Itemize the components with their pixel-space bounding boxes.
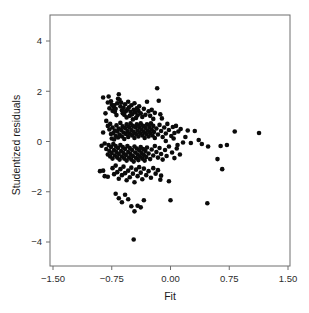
data-point	[156, 132, 161, 137]
data-point	[131, 171, 136, 176]
data-point	[218, 144, 223, 149]
data-point	[160, 116, 165, 121]
data-point	[153, 136, 158, 141]
data-point	[155, 86, 160, 91]
data-point	[113, 163, 118, 168]
data-point	[159, 129, 164, 134]
data-point	[178, 127, 183, 132]
data-point	[142, 166, 147, 171]
data-point	[164, 139, 169, 144]
y-tick-label: 4	[37, 35, 42, 46]
data-point	[137, 104, 142, 109]
data-point	[117, 92, 122, 97]
data-point	[181, 140, 186, 145]
data-point	[113, 107, 118, 112]
data-point	[132, 101, 137, 106]
data-point	[140, 177, 145, 182]
data-point	[129, 165, 134, 170]
data-point	[132, 209, 137, 214]
data-point	[126, 197, 131, 202]
data-point	[163, 148, 168, 153]
data-point	[113, 191, 118, 196]
y-tick-label: 0	[37, 136, 42, 147]
data-point	[151, 117, 156, 122]
data-point	[153, 144, 158, 149]
data-point	[178, 152, 183, 157]
scatter-plot-figure: −1.50−0.750.000.751.50 420−2−4 Fit Stude…	[0, 0, 309, 313]
data-point	[132, 180, 137, 185]
x-tick-label: 0.00	[161, 273, 180, 284]
data-point	[220, 167, 225, 172]
data-point	[160, 157, 165, 162]
data-point	[119, 100, 124, 105]
data-point	[172, 131, 177, 136]
x-tick-label: −0.75	[100, 273, 124, 284]
data-point	[257, 131, 262, 136]
data-point	[175, 143, 180, 148]
data-point	[135, 174, 140, 179]
data-point	[101, 130, 106, 135]
data-point	[157, 146, 162, 151]
data-point	[162, 125, 167, 130]
data-point	[121, 164, 126, 169]
data-point	[145, 145, 150, 150]
data-point	[149, 147, 154, 152]
y-tick-label: −2	[31, 186, 42, 197]
data-point	[131, 237, 136, 242]
data-point	[117, 176, 122, 181]
data-point	[151, 166, 156, 171]
y-tick-label: 2	[37, 86, 42, 97]
x-tick-label: −1.50	[41, 273, 65, 284]
data-point	[200, 142, 205, 147]
data-point	[123, 192, 128, 197]
data-point	[106, 174, 111, 179]
data-point	[215, 157, 220, 162]
x-axis-title: Fit	[164, 290, 176, 302]
data-point	[126, 100, 131, 105]
data-point	[132, 136, 137, 141]
data-point	[165, 122, 170, 127]
data-point	[167, 144, 172, 149]
data-point	[138, 170, 143, 175]
data-point	[196, 138, 201, 143]
y-tick-label: −4	[31, 236, 42, 247]
data-points	[98, 86, 262, 242]
x-axis-ticks: −1.50−0.750.000.751.50	[41, 266, 297, 284]
data-point	[159, 173, 164, 178]
data-point	[183, 135, 188, 140]
x-tick-label: 1.50	[279, 273, 298, 284]
data-point	[158, 112, 163, 117]
data-point	[156, 168, 161, 173]
data-point	[156, 155, 161, 160]
data-point	[106, 94, 111, 99]
data-point	[172, 156, 177, 161]
data-point	[167, 179, 172, 184]
data-point	[153, 111, 158, 116]
data-point	[167, 128, 172, 133]
y-axis-ticks: 420−2−4	[31, 35, 50, 247]
data-point	[164, 131, 169, 136]
plot-frame	[50, 15, 290, 266]
data-point	[148, 157, 153, 162]
data-point	[114, 113, 119, 118]
data-point	[206, 144, 211, 149]
data-point	[156, 99, 161, 104]
data-point	[117, 196, 122, 201]
data-point	[205, 201, 210, 206]
data-point	[102, 141, 107, 146]
data-point	[142, 198, 147, 203]
data-point	[192, 129, 197, 134]
data-point	[146, 169, 151, 174]
data-point	[129, 204, 134, 209]
data-point	[232, 129, 237, 134]
data-point	[185, 128, 190, 133]
data-point	[225, 143, 230, 148]
data-point	[101, 168, 106, 173]
data-point	[144, 173, 149, 178]
data-point	[158, 177, 163, 182]
data-point	[151, 153, 156, 158]
data-point	[120, 200, 125, 205]
data-point	[138, 205, 143, 210]
data-point	[189, 141, 194, 146]
data-point	[143, 113, 148, 118]
